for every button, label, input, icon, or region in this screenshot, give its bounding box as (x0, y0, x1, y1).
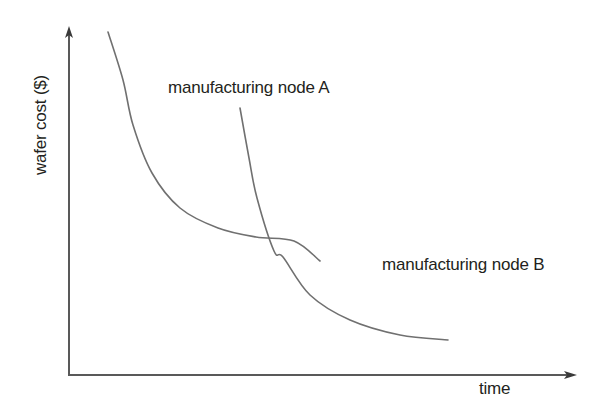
wafer-cost-vs-time-chart: wafer cost ($) time manufacturing node A… (0, 0, 600, 413)
curve-manufacturing-node-a (108, 32, 320, 261)
annotation-manufacturing-node-a: manufacturing node A (168, 78, 329, 98)
y-axis-label: wafer cost ($) (31, 55, 51, 195)
chart-canvas (0, 0, 600, 413)
x-axis-label: time (479, 379, 510, 399)
annotation-manufacturing-node-b: manufacturing node B (382, 255, 544, 275)
curve-manufacturing-node-b (240, 108, 448, 340)
